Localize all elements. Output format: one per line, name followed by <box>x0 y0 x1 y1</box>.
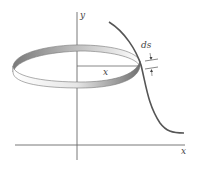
diagram-svg: y x x ds <box>0 0 197 174</box>
ds-label: ds <box>141 40 152 50</box>
surface-of-revolution-diagram: y x x ds <box>0 0 197 174</box>
ds-arrowhead-upper-icon <box>150 57 153 60</box>
ds-tick-lower <box>145 67 158 69</box>
ds-arrowhead-lower-icon <box>150 69 153 72</box>
y-axis-label: y <box>79 10 86 20</box>
band-back-surface <box>13 45 140 72</box>
radius-label: x <box>103 67 108 77</box>
x-axis-label: x <box>181 146 186 156</box>
ds-tick-upper <box>145 59 158 61</box>
band-front-surface <box>13 61 140 88</box>
